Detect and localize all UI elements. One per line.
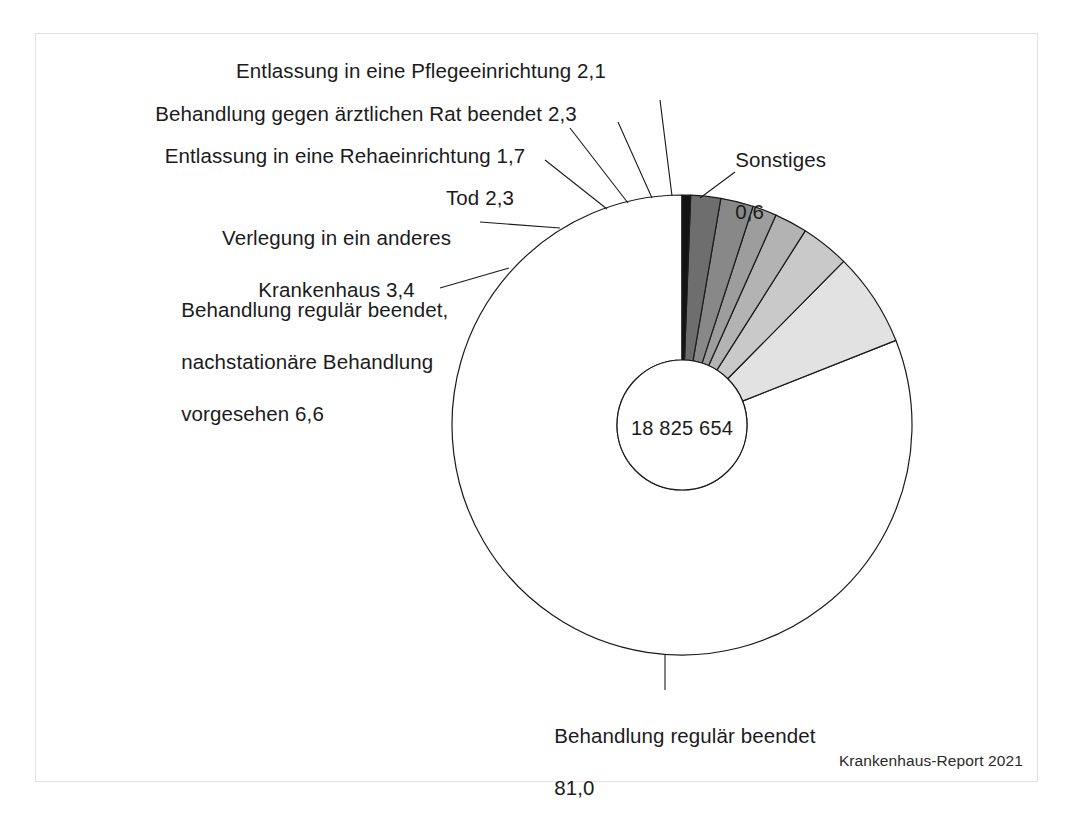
leader-line-pflege — [660, 100, 672, 196]
label-regulaer-line1: Behandlung regulär beendet — [554, 724, 815, 747]
label-regulaer-line2: 81,0 — [554, 776, 594, 799]
label-sonstiges-line1: Sonstiges — [735, 148, 826, 171]
leader-line-aerztlicher-rat — [618, 122, 652, 198]
source-note: Krankenhaus-Report 2021 — [839, 752, 1023, 770]
label-rehaeinrichtung: Entlassung in eine Rehaeinrichtung 1,7 — [110, 143, 580, 169]
label-nachstationaer: Behandlung regulär beendet, nachstationä… — [158, 271, 458, 453]
label-nachstationaer-line3: vorgesehen 6,6 — [181, 402, 324, 425]
label-nachstationaer-line1: Behandlung regulär beendet, — [181, 298, 448, 321]
label-verlegung-line1: Verlegung in ein anderes — [222, 226, 451, 249]
figure-container: Entlassung in eine Pflegeeinrichtung 2,1… — [0, 0, 1073, 816]
label-pflegeeinrichtung: Entlassung in eine Pflegeeinrichtung 2,1 — [171, 58, 671, 84]
label-sonstiges: Sonstiges 0,6 — [712, 121, 892, 251]
label-nachstationaer-line2: nachstationäre Behandlung — [181, 350, 433, 373]
label-sonstiges-line2: 0,6 — [735, 200, 764, 223]
donut-center-value: 18 825 654 — [582, 417, 782, 440]
label-aerztlicher-rat: Behandlung gegen ärztlichen Rat beendet … — [111, 101, 621, 127]
leader-line-verlegung — [480, 222, 560, 228]
